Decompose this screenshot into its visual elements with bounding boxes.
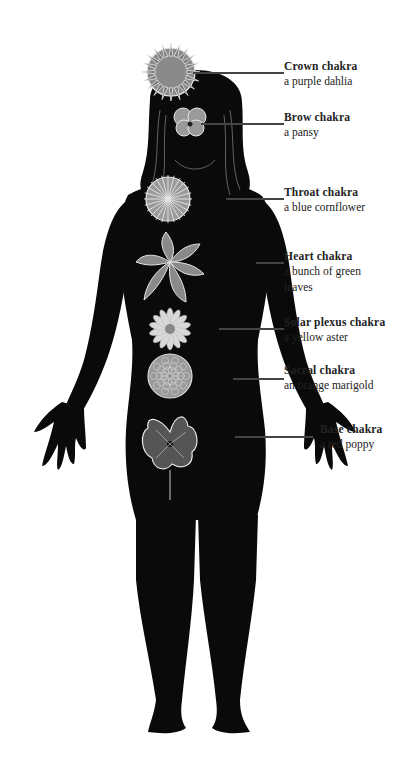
chakra-flower: a blue cornflower (284, 199, 394, 215)
chakra-name: Base chakra (320, 422, 401, 436)
sacral-flower-marigold (148, 354, 192, 398)
chakra-name: Sacral chakra (284, 363, 394, 377)
brow-flower-pansy (174, 108, 206, 136)
chakra-flower: a red poppy (320, 436, 401, 452)
heart-leader-line (256, 262, 284, 264)
body-silhouette (34, 70, 356, 733)
sacral-leader-line (233, 378, 284, 380)
brow-chakra-label: Brow chakra a pansy (284, 110, 394, 140)
chakra-flower: a purple dahlia (284, 73, 394, 89)
chakra-name: Solar plexus chakra (284, 315, 394, 329)
chakra-flower: a bunch of green leaves (284, 263, 374, 295)
chakra-name: Brow chakra (284, 110, 394, 124)
crown-chakra-label: Crown chakra a purple dahlia (284, 59, 394, 89)
chakra-name: Crown chakra (284, 59, 394, 73)
solar-plexus-leader-line (219, 328, 284, 330)
dahlia-petal (142, 70, 155, 74)
solar-plexus-chakra-label: Solar plexus chakra a yellow aster (284, 315, 394, 345)
throat-chakra-label: Throat chakra a blue cornflower (284, 185, 394, 215)
heart-chakra-label: Heart chakra a bunch of green leaves (284, 249, 374, 295)
crown-leader-line (193, 72, 284, 74)
chakra-name: Throat chakra (284, 185, 394, 199)
base-leader-line (235, 436, 313, 438)
chakra-name: Heart chakra (284, 249, 374, 263)
chakra-flower: a pansy (284, 124, 394, 140)
chakra-flower: a yellow aster (284, 329, 394, 345)
throat-leader-line (226, 198, 284, 200)
base-chakra-label: Base chakra a red poppy (320, 422, 401, 452)
dahlia-petal (169, 43, 173, 56)
sacral-chakra-label: Sacral chakra an orange marigold (284, 363, 394, 393)
brow-leader-line (201, 123, 284, 125)
throat-flower-cornflower (144, 175, 192, 223)
chakra-flower: an orange marigold (284, 377, 394, 393)
